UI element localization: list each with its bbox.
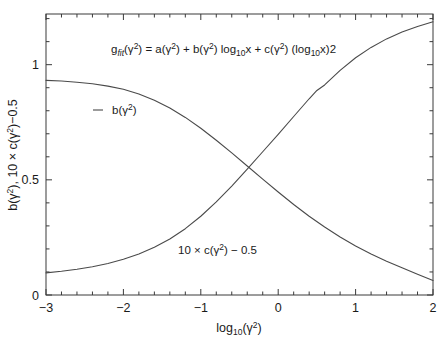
chart-figure: gfit(γ2) = a(γ2) + b(γ2) log10x + c(γ2) … xyxy=(0,0,448,342)
x-tick-label: 0 xyxy=(275,301,282,315)
y-axis-title: b(γ2), 10 × c(γ2)−0.5 xyxy=(5,99,20,211)
x-tick-label: 1 xyxy=(352,301,359,315)
x-tick-label: −2 xyxy=(116,301,130,315)
y-tick-label: 0 xyxy=(32,289,39,303)
y-tick-label: 0.5 xyxy=(22,173,39,187)
series-1-label: 10 × c(γ2) − 0.5 xyxy=(178,242,257,256)
x-tick-label: 2 xyxy=(430,301,437,315)
x-tick-label: −3 xyxy=(39,301,53,315)
x-tick-label: −1 xyxy=(194,301,208,315)
series-0-label: b(γ2) xyxy=(112,102,137,116)
y-tick-label: 1 xyxy=(32,58,39,72)
